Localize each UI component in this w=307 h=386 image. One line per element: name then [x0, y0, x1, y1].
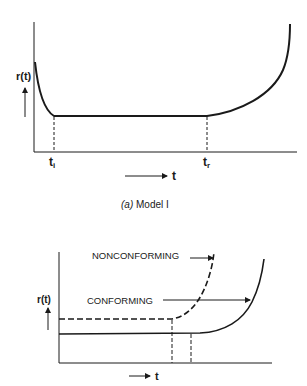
figure-a-caption: (a) Model I — [121, 199, 169, 210]
figure-b-nonconforming-curve — [59, 252, 214, 319]
figure-a-tr-label: tr — [203, 155, 210, 170]
figure-b-xlabel: t — [155, 370, 159, 382]
figure-a-failure-rate-curve — [35, 24, 290, 116]
figure-a-ti-label: ti — [49, 155, 55, 170]
figure-b-ylabel: r(t) — [37, 294, 51, 305]
figure-b-nonconforming-label: NONCONFORMING — [92, 250, 179, 261]
figure-a-bathtub-curve: r(t) ti tr t (a) Model I — [16, 22, 297, 210]
figure-a-ylabel: r(t) — [16, 70, 32, 82]
diagram-canvas: r(t) ti tr t (a) Model I NONCONFORMING C… — [0, 0, 307, 386]
figure-b-conforming-label: CONFORMING — [87, 295, 153, 306]
figure-b-conforming-vs-nonconforming: NONCONFORMING CONFORMING r(t) t — [37, 250, 272, 382]
figure-a-xlabel: t — [172, 169, 176, 183]
